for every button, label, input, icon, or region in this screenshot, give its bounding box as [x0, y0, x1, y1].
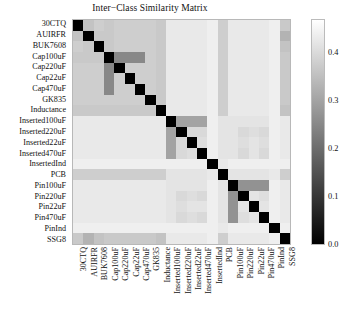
heatmap-cell	[207, 137, 217, 148]
heatmap-cell	[135, 52, 145, 63]
heatmap-cell	[249, 52, 259, 63]
heatmap-cell	[187, 105, 197, 116]
heatmap-cell	[145, 169, 155, 180]
heatmap-cell	[114, 191, 124, 202]
colorbar-tick-label: 0.1	[328, 193, 338, 201]
heatmap-cell	[259, 212, 269, 223]
heatmap-cell	[249, 159, 259, 170]
heatmap-cell	[166, 116, 176, 127]
heatmap-cell	[187, 137, 197, 148]
x-tick-label: 30CTQ	[72, 245, 82, 323]
heatmap-cell	[156, 52, 166, 63]
y-tick-label: Inserted470uF	[0, 148, 69, 159]
x-tick-label: Pin470uF	[260, 245, 270, 323]
heatmap-cell	[114, 105, 124, 116]
heatmap-cell	[207, 31, 217, 42]
heatmap-cell	[249, 233, 259, 244]
heatmap-cell	[207, 84, 217, 95]
heatmap-cell	[104, 201, 114, 212]
heatmap-cell	[207, 105, 217, 116]
heatmap-cell	[125, 31, 135, 42]
heatmap-cell	[228, 127, 238, 138]
heatmap-cell	[104, 105, 114, 116]
heatmap-cell	[280, 148, 290, 159]
y-tick-label: BUK7608	[0, 41, 69, 52]
x-tick-label: Inserted220uF	[176, 245, 186, 323]
heatmap-cell	[218, 169, 228, 180]
heatmap-cell	[176, 73, 186, 84]
heatmap-cell	[125, 233, 135, 244]
heatmap-cell	[238, 116, 248, 127]
heatmap-cell	[269, 201, 279, 212]
heatmap-cell	[207, 73, 217, 84]
heatmap-cell	[269, 180, 279, 191]
heatmap-cell	[104, 169, 114, 180]
heatmap-cell	[269, 137, 279, 148]
y-tick-label: PinInd	[0, 224, 69, 235]
heatmap-cell	[187, 159, 197, 170]
heatmap-cell	[94, 105, 104, 116]
heatmap-cell	[156, 20, 166, 31]
heatmap-cell	[218, 201, 228, 212]
heatmap-cell	[125, 52, 135, 63]
heatmap-cell	[269, 116, 279, 127]
similarity-matrix-figure: Inter−Class Similarity Matrix 30CTQAUIRF…	[0, 0, 351, 324]
x-tick-label: AUIRFR	[82, 245, 92, 323]
heatmap-cell	[135, 20, 145, 31]
heatmap-cell	[135, 191, 145, 202]
heatmap-cell	[166, 159, 176, 170]
heatmap-cell	[259, 191, 269, 202]
heatmap-cell	[218, 159, 228, 170]
heatmap-cell	[73, 212, 83, 223]
heatmap-cell	[207, 223, 217, 234]
heatmap-cell	[207, 41, 217, 52]
heatmap-cell	[166, 223, 176, 234]
heatmap-cell	[197, 169, 207, 180]
heatmap-cell	[176, 20, 186, 31]
heatmap-cell	[249, 84, 259, 95]
heatmap-cell	[187, 116, 197, 127]
heatmap-cell	[73, 63, 83, 74]
heatmap-cell	[83, 73, 93, 84]
heatmap-cell	[176, 105, 186, 116]
heatmap-cell	[249, 73, 259, 84]
heatmap-cell	[259, 63, 269, 74]
heatmap-cell	[135, 148, 145, 159]
x-tick-label-text: SSG8	[289, 247, 297, 266]
heatmap-cell	[73, 137, 83, 148]
heatmap-cell	[104, 41, 114, 52]
heatmap-cell	[94, 52, 104, 63]
heatmap-cell	[207, 212, 217, 223]
heatmap-cell	[269, 20, 279, 31]
heatmap-cell	[259, 31, 269, 42]
heatmap-cell	[104, 116, 114, 127]
heatmap-cell	[197, 52, 207, 63]
heatmap-cell	[104, 159, 114, 170]
heatmap-cell	[94, 159, 104, 170]
heatmap-cell	[280, 159, 290, 170]
heatmap-cell	[135, 84, 145, 95]
heatmap-cell	[197, 180, 207, 191]
heatmap-cell	[156, 223, 166, 234]
heatmap-cell	[249, 31, 259, 42]
heatmap-cell	[259, 95, 269, 106]
heatmap-cell	[94, 201, 104, 212]
heatmap-cell	[187, 223, 197, 234]
x-tick-label: Inserted100uF	[166, 245, 176, 323]
heatmap-cell	[197, 116, 207, 127]
heatmap-cell	[104, 137, 114, 148]
heatmap-cell	[125, 73, 135, 84]
heatmap-cell	[238, 95, 248, 106]
heatmap-cell	[145, 105, 155, 116]
heatmap-cell	[145, 127, 155, 138]
heatmap-cell	[156, 105, 166, 116]
heatmap-cell	[114, 95, 124, 106]
heatmap-cell	[176, 169, 186, 180]
heatmap-cell	[114, 233, 124, 244]
heatmap-cell	[166, 95, 176, 106]
heatmap-cell	[94, 223, 104, 234]
heatmap-cell	[125, 95, 135, 106]
heatmap-cell	[166, 105, 176, 116]
y-tick-label: AUIRFR	[0, 30, 69, 41]
heatmap-cell	[114, 52, 124, 63]
